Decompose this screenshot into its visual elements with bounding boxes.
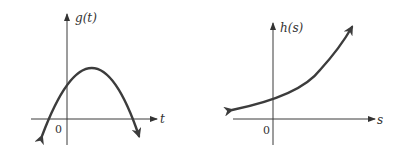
- graph-g: g(t) t 0: [31, 11, 165, 145]
- graph-h: h(s) s 0: [232, 21, 383, 145]
- h-y-label: h(s): [280, 21, 304, 35]
- g-origin-label: 0: [55, 123, 62, 136]
- h-curve: [232, 27, 352, 110]
- g-x-label: t: [160, 112, 165, 126]
- h-x-label: s: [377, 113, 383, 127]
- h-origin-label: 0: [263, 124, 270, 137]
- g-y-label: g(t): [75, 11, 97, 25]
- diagram-canvas: g(t) t 0 h(s) s 0: [0, 0, 401, 158]
